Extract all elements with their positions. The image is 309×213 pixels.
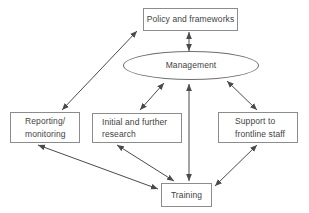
diagram-canvas: Policy and frameworks Management Reporti…	[0, 0, 309, 213]
node-support-to-frontline-staff: Support to frontline staff	[218, 112, 298, 143]
node-initial-and-further-research: Initial and further research	[92, 113, 182, 143]
connector-management-support	[227, 81, 257, 110]
node-research-label-line1: Initial and further	[102, 116, 181, 129]
connector-reporting-policy	[62, 31, 137, 110]
node-management: Management	[123, 51, 259, 80]
node-research-label-line2: research	[102, 128, 181, 141]
connector-layer	[0, 0, 309, 213]
node-support-label-line2: frontline staff	[235, 128, 297, 141]
node-training-label: Training	[171, 189, 202, 202]
node-policy-and-frameworks: Policy and frameworks	[143, 8, 238, 31]
node-reporting-label-line1: Reporting/	[25, 115, 79, 128]
node-reporting-monitoring: Reporting/ monitoring	[10, 112, 80, 143]
connector-management-research	[140, 83, 164, 110]
connector-support-training	[215, 145, 257, 186]
connector-research-training	[117, 145, 174, 181]
node-policy-label: Policy and frameworks	[147, 13, 235, 26]
node-training: Training	[161, 183, 212, 207]
connector-reporting-training	[38, 145, 158, 189]
node-support-label-line1: Support to	[235, 115, 297, 128]
node-reporting-label-line2: monitoring	[25, 128, 79, 141]
node-management-label: Management	[166, 59, 217, 72]
